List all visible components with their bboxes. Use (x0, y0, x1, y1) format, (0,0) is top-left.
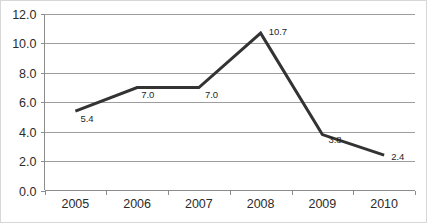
gridline-group (45, 15, 416, 162)
chart-plot-area: 0.02.04.06.08.010.012.0 2005200620072008… (0, 0, 427, 223)
x-axis-tick-label: 2005 (61, 197, 89, 211)
x-tickmark-group (46, 191, 416, 195)
y-tickmark-group (41, 15, 45, 192)
y-axis-tick-label: 2.0 (19, 155, 36, 169)
y-axis-tick-label: 12.0 (12, 8, 36, 22)
x-axis-tick-label: 2007 (185, 197, 213, 211)
data-point-label: 2.4 (391, 151, 404, 162)
y-axis-tick-label: 8.0 (19, 67, 36, 81)
y-axis-tick-label: 6.0 (19, 96, 36, 110)
x-axis-tick-label: 2006 (123, 197, 151, 211)
y-axis-tick-label: 4.0 (19, 126, 36, 140)
x-axis-tick-label: 2008 (247, 197, 275, 211)
data-point-label: 10.7 (269, 26, 288, 37)
x-axis-tick-labels: 200520062007200820092010 (61, 197, 398, 211)
x-axis-tick-label: 2010 (370, 197, 398, 211)
data-point-label: 5.4 (80, 113, 93, 124)
y-axis-tick-label: 10.0 (12, 37, 36, 51)
y-axis-tick-label: 0.0 (19, 185, 36, 199)
x-axis-tick-label: 2009 (308, 197, 336, 211)
line-chart: 0.02.04.06.08.010.012.0 2005200620072008… (0, 0, 427, 223)
y-axis-tick-labels: 0.02.04.06.08.010.012.0 (12, 8, 36, 199)
data-point-label: 7.0 (205, 89, 218, 100)
data-point-label-group: 5.47.07.010.73.82.4 (80, 26, 404, 162)
data-point-label: 3.8 (328, 134, 341, 145)
data-point-label: 7.0 (141, 89, 154, 100)
